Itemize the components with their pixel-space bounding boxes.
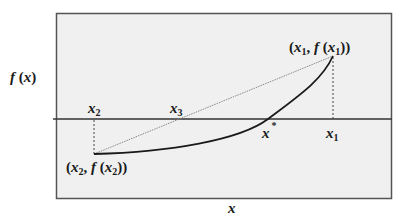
x1-point-label: (x1, f (x1)) <box>289 39 350 57</box>
x-axis-label: x <box>227 200 236 216</box>
y-axis-label: f (x) <box>10 69 36 86</box>
regula-falsi-diagram: f (x) x x2 x3 x* x1 (x1, f (x1)) (x2, f … <box>0 0 410 217</box>
x2-point-label: (x2, f (x2)) <box>66 159 127 177</box>
